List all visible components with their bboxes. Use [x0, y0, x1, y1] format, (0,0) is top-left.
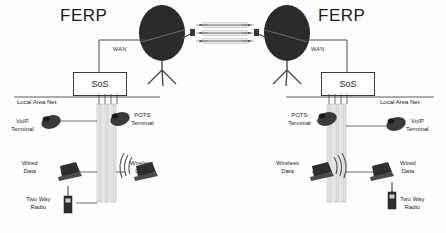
desk-phone-icon-voip-right [384, 115, 407, 134]
diagram-graphics [0, 0, 446, 233]
satellite-dish-icon-right [254, 5, 310, 86]
desk-phone-icon-voip-left [39, 113, 62, 132]
lan-bus-right [327, 94, 347, 202]
satellite-dish-icon-left [139, 5, 195, 86]
diagram-canvas: FERP FERP SoS SoS WAN WAN Local Area Net… [0, 0, 446, 233]
laptop-icon-wired-right [370, 162, 394, 181]
lan-bus-left [97, 94, 117, 202]
laptop-icon-wired-left [58, 162, 82, 181]
laptop-wireless-icon-left [120, 153, 158, 181]
handheld-radio-icon-left [64, 186, 72, 213]
handheld-radio-icon-right [388, 182, 396, 209]
